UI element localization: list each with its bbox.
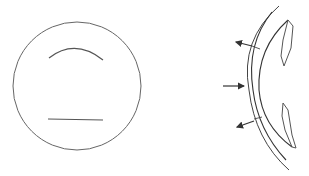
upper-outward-arrow xyxy=(236,42,252,46)
right-panel xyxy=(223,6,296,170)
outer-circle xyxy=(13,22,141,150)
outer-membrane-line xyxy=(247,6,289,170)
lower-line xyxy=(48,119,103,120)
left-panel xyxy=(13,22,141,150)
diagram-canvas xyxy=(0,0,309,176)
upper-tick xyxy=(252,46,260,49)
upper-arc xyxy=(49,48,103,60)
upper-flap xyxy=(281,20,293,66)
lower-outward-arrow xyxy=(237,121,254,127)
